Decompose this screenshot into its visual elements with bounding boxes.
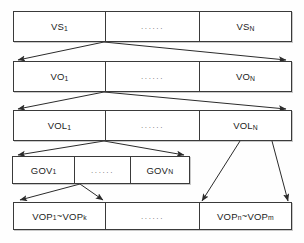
- cell-vs-n: VSN: [199, 12, 291, 41]
- arrow-vol-to-gov-left: [18, 141, 104, 155]
- range-tilde: ~: [57, 210, 63, 221]
- cell-vo-ellipsis: ......: [105, 62, 199, 91]
- cell-vop-range-1-k: VOP1~VOPk: [14, 203, 105, 229]
- cell-label: GOV: [146, 165, 168, 176]
- arrow-voln-to-vop-left: [202, 141, 240, 201]
- arrow-vol-to-gov-right: [104, 141, 184, 155]
- cell-vol-n: VOLN: [199, 111, 291, 140]
- cell-label: VS: [51, 21, 64, 32]
- ellipsis-label: ......: [141, 121, 164, 130]
- cell-vs-1: VS1: [14, 12, 105, 41]
- cell-label: VOL: [233, 120, 253, 131]
- row-video-object-layer: VOL1 ...... VOLN: [13, 110, 292, 141]
- arrow-vo-to-vol-left: [18, 92, 104, 109]
- cell-label-range-end: VOP: [63, 211, 84, 222]
- cell-label: GOV: [31, 165, 53, 176]
- cell-gov-1: GOV1: [13, 157, 74, 183]
- cell-label: VO: [236, 71, 250, 82]
- arrow-vs-to-vo-left: [18, 42, 104, 60]
- cell-gov-ellipsis: ......: [74, 157, 129, 183]
- row-video-object: VO1 ...... VON: [13, 61, 292, 92]
- cell-vop-ellipsis: ......: [105, 203, 199, 229]
- arrow-gov-to-vop-right: [80, 184, 103, 200]
- ellipsis-label: ......: [91, 166, 114, 175]
- cell-vs-ellipsis: ......: [105, 12, 199, 41]
- cell-vo-n: VON: [199, 62, 291, 91]
- cell-vol-1: VOL1: [14, 111, 105, 140]
- cell-label: VS: [236, 21, 249, 32]
- arrow-voln-to-vop-right: [272, 141, 288, 201]
- cell-label: VOP: [217, 211, 238, 222]
- ellipsis-label: ......: [141, 72, 164, 81]
- cell-vo-1: VO1: [14, 62, 105, 91]
- ellipsis-label: ......: [141, 22, 164, 31]
- row-vop: VOP1~VOPk ...... VOPn~VOPm: [13, 202, 292, 230]
- range-tilde: ~: [242, 210, 248, 221]
- row-video-session: VS1 ...... VSN: [13, 11, 292, 42]
- cell-vop-range-n-m: VOPn~VOPm: [199, 203, 291, 229]
- cell-label: VOP: [32, 211, 53, 222]
- row-group-of-vop: GOV1 ...... GOVN: [12, 156, 190, 184]
- arrow-vs-to-vo-right: [104, 42, 286, 60]
- arrow-vo-to-vol-right: [104, 92, 286, 109]
- cell-label: VO: [50, 71, 64, 82]
- cell-gov-n: GOVN: [130, 157, 189, 183]
- diagram-canvas: VS1 ...... VSN VO1 ...... VON VOL1 .....…: [0, 0, 304, 243]
- cell-label-range-end: VOP: [247, 211, 268, 222]
- cell-label: VOL: [48, 120, 68, 131]
- ellipsis-label: ......: [141, 212, 164, 221]
- cell-vol-ellipsis: ......: [105, 111, 199, 140]
- arrow-gov-to-vop-left: [20, 184, 80, 200]
